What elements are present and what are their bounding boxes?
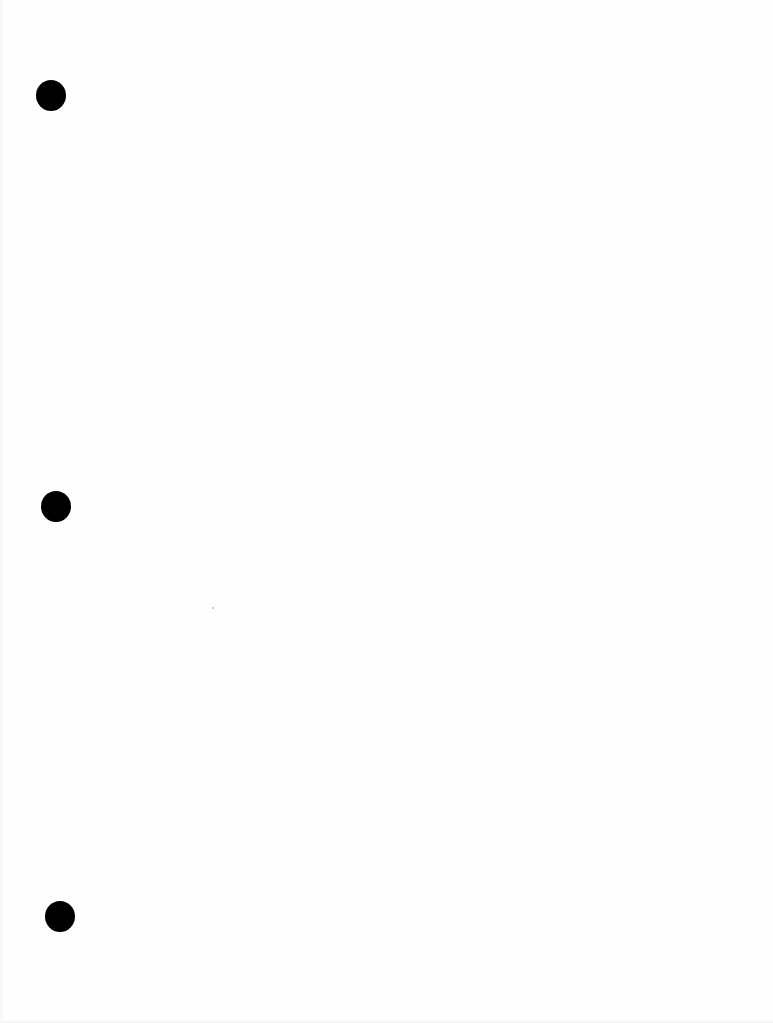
scanned-page [0,0,773,1023]
punch-hole-bottom [45,901,75,932]
page-left-edge-shadow [0,0,4,1023]
punch-hole-middle [41,491,71,522]
scan-noise-speck [212,607,214,609]
page-bottom-edge-shadow [0,1019,773,1023]
punch-hole-top [36,80,66,111]
